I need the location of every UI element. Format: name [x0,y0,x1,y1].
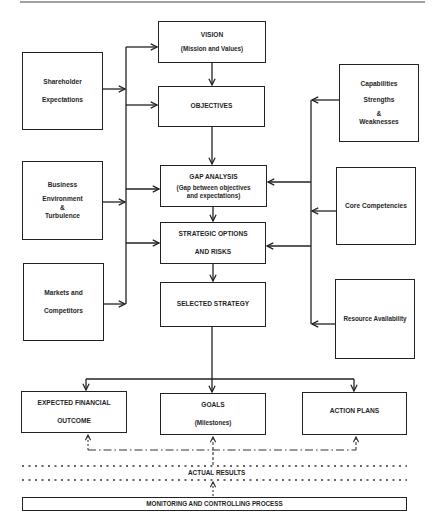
strategic-options-line2: AND RISKS [195,248,231,256]
capabilities-line2: Strengths [364,96,395,104]
business-line4: Turbulence [45,212,80,220]
shareholder-line1: Shareholder [43,78,81,86]
markets-line1: Markets and [44,289,82,297]
monitoring-title: MONITORING AND CONTROLLING PROCESS [146,500,282,508]
gap-analysis-subtitle-1: (Gap between objectives [177,184,251,192]
resource-availability-box: Resource Availability [335,279,415,359]
expected-financial-outcome-box: EXPECTED FINANCIAL OUTCOME [21,391,127,433]
shareholder-line2: Expectations [42,96,83,104]
capabilities-line4: Weaknesses [359,118,398,126]
business-line2: Environment [42,195,82,203]
vision-title: VISION [201,31,223,39]
gap-analysis-subtitle-2: and expectations) [187,192,241,200]
shareholder-box: Shareholder Expectations [22,52,103,130]
business-environment-box: Business Environment & Turbulence [22,161,103,240]
goals-box: GOALS (Milestones) [160,393,266,435]
resource-availability-title: Resource Availability [343,315,406,323]
business-line1: Business [48,181,77,189]
capabilities-line1: Capabilities [360,80,397,88]
capabilities-box: Capabilities Strengths & Weaknesses [339,64,419,142]
action-plans-box: ACTION PLANS [302,392,407,435]
goals-title: GOALS [201,401,224,409]
actual-results-label: ACTUAL RESULTS [188,469,245,476]
markets-line2: Competitors [44,307,83,315]
objectives-title: OBJECTIVES [191,102,233,110]
selected-strategy-box: SELECTED STRATEGY [160,282,266,327]
objectives-box: OBJECTIVES [158,86,265,127]
capabilities-line3: & [377,110,382,118]
strategy-diagram: VISION (Mission and Values) OBJECTIVES G… [0,0,435,530]
core-competencies-box: Core Competencies [336,167,416,245]
monitoring-box: MONITORING AND CONTROLLING PROCESS [22,497,407,511]
strategic-options-line1: STRATEGIC OPTIONS [178,230,247,238]
vision-subtitle: (Mission and Values) [181,45,243,53]
efo-line1: EXPECTED FINANCIAL [38,399,111,407]
gap-analysis-title: GAP ANALYSIS [189,173,238,181]
core-competencies-title: Core Competencies [345,202,407,210]
efo-line2: OUTCOME [57,417,91,425]
gap-analysis-box: GAP ANALYSIS (Gap between objectives and… [160,165,267,207]
action-plans-title: ACTION PLANS [330,407,379,415]
strategic-options-box: STRATEGIC OPTIONS AND RISKS [160,222,266,264]
vision-box: VISION (Mission and Values) [158,21,266,63]
selected-strategy-title: SELECTED STRATEGY [177,300,249,308]
markets-box: Markets and Competitors [23,263,104,341]
business-line3: & [60,204,65,212]
goals-subtitle: (Milestones) [195,419,232,427]
